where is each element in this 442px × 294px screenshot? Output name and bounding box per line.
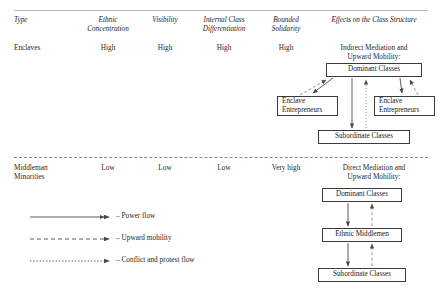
column-header-internal-line2: Differentiation bbox=[190, 25, 258, 34]
section-divider-dashed bbox=[14, 157, 428, 158]
row-enclaves-ethnic: High bbox=[78, 43, 138, 52]
column-header-bounded-line1: Bounded bbox=[258, 16, 314, 25]
arrow-enclaves-upward-left-entrepreneurs-to-dominant bbox=[300, 80, 326, 95]
legend-label-upward-mobility: – Upward mobility bbox=[116, 232, 172, 243]
enclaves-diagram-title-line1: Indirect Mediation and bbox=[314, 43, 434, 52]
row-enclaves-type: Enclaves bbox=[14, 43, 84, 52]
row-middleman-visibility: Low bbox=[140, 163, 190, 172]
enclaves-box-dominant-classes-label: Dominant Classes bbox=[348, 65, 400, 74]
enclaves-box-enclave-entrepreneurs-left-line2: Entrepreneurs bbox=[282, 106, 322, 115]
enclaves-diagram-title-line2: Upward Mobility: bbox=[314, 52, 434, 61]
arrow-enclaves-power-dominant-to-left-entrepreneurs bbox=[313, 78, 333, 93]
row-middleman-type-line2: Minorities bbox=[14, 172, 86, 181]
middleman-box-subordinate-classes-label: Subordinate Classes bbox=[333, 270, 391, 279]
enclaves-box-enclave-entrepreneurs-left: Enclave Entrepreneurs bbox=[277, 96, 338, 116]
row-middleman-ethnic: Low bbox=[78, 163, 138, 172]
column-header-visibility: Visibility bbox=[140, 16, 190, 25]
legend-line-dotted-icon bbox=[30, 255, 114, 267]
legend-item-conflict-protest-flow: – Conflict and protest flow bbox=[30, 255, 230, 267]
enclaves-box-subordinate-classes-label: Subordinate Classes bbox=[335, 132, 393, 141]
column-header-internal-line1: Internal Class bbox=[190, 16, 258, 25]
middleman-box-dominant-classes: Dominant Classes bbox=[322, 188, 402, 202]
column-header-type: Type bbox=[14, 16, 84, 25]
column-header-ethnic-line1: Ethnic bbox=[78, 16, 138, 25]
middleman-box-ethnic-middlemen: Ethnic Middlemen bbox=[322, 228, 402, 242]
enclaves-box-enclave-entrepreneurs-left-line1: Enclave bbox=[282, 97, 305, 106]
table-top-rule bbox=[14, 10, 428, 11]
enclaves-box-enclave-entrepreneurs-right-line1: Enclave bbox=[379, 97, 402, 106]
legend-line-solid-icon bbox=[30, 211, 114, 223]
row-enclaves-internal: High bbox=[190, 43, 258, 52]
arrow-enclaves-power-dominant-to-right-entrepreneurs bbox=[400, 78, 402, 93]
column-header-effects: Effects on the Class Structure bbox=[314, 16, 434, 25]
enclaves-box-enclave-entrepreneurs-right: Enclave Entrepreneurs bbox=[374, 96, 435, 116]
middleman-diagram-title-line1: Direct Mediation and bbox=[314, 163, 434, 172]
legend-line-dashed-icon bbox=[30, 233, 114, 245]
legend-label-power-flow: – Power flow bbox=[116, 210, 155, 221]
row-enclaves-bounded: High bbox=[258, 43, 314, 52]
enclaves-box-enclave-entrepreneurs-right-line2: Entrepreneurs bbox=[379, 106, 419, 115]
row-enclaves-visibility: High bbox=[140, 43, 190, 52]
row-middleman-type-line1: Middleman bbox=[14, 163, 86, 172]
row-middleman-internal: Low bbox=[190, 163, 258, 172]
middleman-box-dominant-classes-label: Dominant Classes bbox=[336, 190, 388, 199]
column-header-ethnic-line2: Concentration bbox=[78, 25, 138, 34]
figure-canvas: Type Ethnic Concentration Visibility Int… bbox=[0, 0, 442, 294]
legend-label-conflict-protest-flow: – Conflict and protest flow bbox=[116, 254, 195, 265]
column-header-bounded-line2: Solidarity bbox=[258, 25, 314, 34]
middleman-box-subordinate-classes: Subordinate Classes bbox=[318, 268, 406, 282]
middleman-diagram-title-line2: Upward Mobility: bbox=[314, 172, 434, 181]
legend-item-power-flow: – Power flow bbox=[30, 211, 230, 223]
arrow-enclaves-upward-right-entrepreneurs-to-dominant bbox=[410, 80, 418, 95]
enclaves-box-dominant-classes: Dominant Classes bbox=[326, 63, 422, 77]
middleman-box-ethnic-middlemen-label: Ethnic Middlemen bbox=[335, 230, 389, 239]
row-middleman-bounded: Very high bbox=[258, 163, 314, 172]
enclaves-box-subordinate-classes: Subordinate Classes bbox=[318, 130, 410, 144]
legend-item-upward-mobility: – Upward mobility bbox=[30, 233, 230, 245]
